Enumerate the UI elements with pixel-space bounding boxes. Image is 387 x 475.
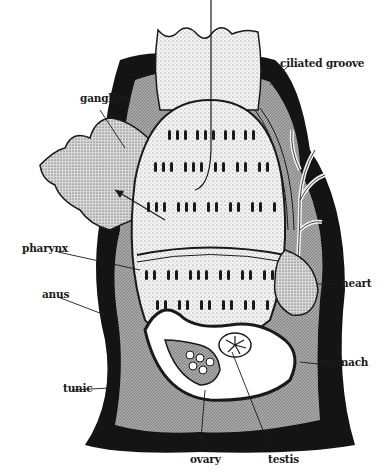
label-ganglion: ganglion [80, 92, 130, 104]
oral-siphon [155, 28, 261, 110]
label-anus: anus [42, 288, 69, 300]
label-testis: testis [268, 453, 299, 465]
label-ovary: ovary [190, 453, 221, 465]
label-tunic: tunic [63, 382, 93, 394]
label-pharynx: pharynx [22, 242, 68, 254]
label-heart: heart [341, 277, 372, 289]
label-ciliated-groove: ciliated groove [280, 57, 364, 69]
tunicate-diagram [0, 0, 387, 475]
label-stomach: stomach [320, 356, 368, 368]
